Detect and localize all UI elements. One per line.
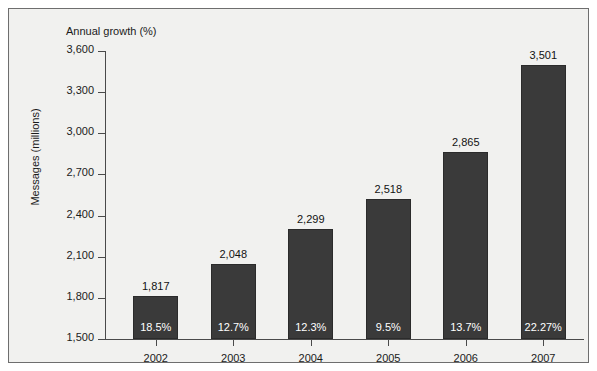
y-tick-mark <box>98 339 105 340</box>
bar-value-label: 2,518 <box>374 183 402 195</box>
y-tick-label: 3,000 <box>66 125 94 137</box>
bar <box>521 65 566 339</box>
x-tick-label: 2003 <box>221 352 245 364</box>
y-tick-label: 2,400 <box>66 208 94 220</box>
figure-frame: Annual growth (%) Messages (millions) 1,… <box>8 8 589 363</box>
y-tick-label: 3,600 <box>66 43 94 55</box>
y-tick-mark <box>98 133 105 134</box>
y-tick-label: 2,100 <box>66 249 94 261</box>
y-tick-mark <box>98 216 105 217</box>
y-tick-mark <box>98 51 105 52</box>
chart-screenshot: Annual growth (%) Messages (millions) 1,… <box>0 0 597 371</box>
y-tick-label: 1,500 <box>66 331 94 343</box>
bar-growth-label: 18.5% <box>140 321 171 333</box>
y-tick-mark <box>98 92 105 93</box>
x-tick-mark <box>156 339 157 346</box>
x-axis-line <box>105 339 584 340</box>
y-tick-label: 3,300 <box>66 84 94 96</box>
x-tick-mark <box>466 339 467 346</box>
x-tick-mark <box>543 339 544 346</box>
x-tick-label: 2002 <box>144 352 168 364</box>
x-tick-label: 2006 <box>454 352 478 364</box>
bar-value-label: 3,501 <box>529 49 557 61</box>
x-tick-mark <box>233 339 234 346</box>
x-tick-mark <box>388 339 389 346</box>
x-tick-label: 2005 <box>376 352 400 364</box>
plot-area: 1,5001,8002,1002,4002,7003,0003,3003,600… <box>105 43 587 341</box>
bar-value-label: 1,817 <box>142 280 170 292</box>
bar <box>443 152 488 339</box>
y-axis-line <box>105 51 106 340</box>
bar-value-label: 2,048 <box>219 248 247 260</box>
y-tick-label: 1,800 <box>66 290 94 302</box>
top-axis-title: Annual growth (%) <box>66 25 157 37</box>
x-tick-label: 2004 <box>299 352 323 364</box>
y-tick-mark <box>98 298 105 299</box>
bar-value-label: 2,299 <box>297 213 325 225</box>
x-tick-mark <box>311 339 312 346</box>
y-tick-mark <box>98 257 105 258</box>
x-tick-label: 2007 <box>531 352 555 364</box>
bar <box>366 199 411 339</box>
bar-growth-label: 9.5% <box>376 321 401 333</box>
bar-growth-label: 12.7% <box>218 321 249 333</box>
bar-growth-label: 12.3% <box>295 321 326 333</box>
bar-growth-label: 22.27% <box>525 321 562 333</box>
y-axis-title: Messages (millions) <box>29 87 41 227</box>
bar-growth-label: 13.7% <box>450 321 481 333</box>
bar-value-label: 2,865 <box>452 136 480 148</box>
y-tick-mark <box>98 174 105 175</box>
y-tick-label: 2,700 <box>66 166 94 178</box>
